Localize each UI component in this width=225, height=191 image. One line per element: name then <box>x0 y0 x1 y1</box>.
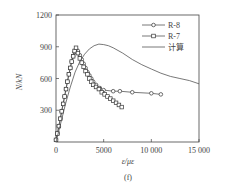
y-tick-label: 1200 <box>36 11 52 20</box>
y-axis-label: N/kN <box>15 73 24 91</box>
y-tick-label: 600 <box>40 75 52 84</box>
series-R-7 <box>54 46 123 142</box>
y-tick-label: 300 <box>40 106 52 115</box>
series-计算 <box>56 44 199 142</box>
legend-label: 计算 <box>168 42 184 52</box>
series-group <box>54 44 199 142</box>
chart: 0500010 00015 0003006009001200 R-8R-7计算 … <box>0 0 225 191</box>
y-tick-label: 900 <box>40 43 52 52</box>
axis-ticks: 0500010 00015 0003006009001200 <box>36 11 210 155</box>
panel-label: (f) <box>124 173 132 182</box>
legend-item: R-7 <box>142 32 180 41</box>
x-tick-label: 10 000 <box>140 146 162 155</box>
legend-item: R-8 <box>142 21 180 30</box>
legend-label: R-7 <box>168 32 180 41</box>
legend-item: 计算 <box>142 42 184 52</box>
x-tick-label: 0 <box>54 146 58 155</box>
x-tick-label: 5000 <box>96 146 112 155</box>
x-tick-label: 15 000 <box>188 146 210 155</box>
legend-label: R-8 <box>168 21 180 30</box>
x-axis-label: ε/με <box>122 157 135 166</box>
legend: R-8R-7计算 <box>142 21 184 52</box>
